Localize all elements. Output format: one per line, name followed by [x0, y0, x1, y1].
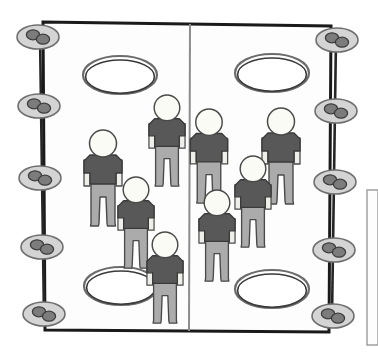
figure-right-1-shirt — [190, 134, 227, 162]
right-marker-3[interactable] — [314, 170, 356, 194]
left-marker-3[interactable] — [19, 166, 61, 190]
figure-left-2-shirt — [149, 119, 185, 147]
right-marker-2[interactable] — [315, 99, 357, 123]
diagram-canvas — [0, 0, 378, 357]
figure-right-2-head — [268, 108, 295, 135]
right-marker-4[interactable] — [313, 238, 355, 262]
right-marker-4-blob-right — [332, 247, 345, 257]
right-marker-5-blob-right — [331, 313, 344, 323]
left-marker-4-blob-right — [40, 244, 53, 254]
hoop-top-right[interactable] — [235, 54, 309, 92]
left-marker-1-blob-right — [36, 34, 49, 44]
figure-right-4-head — [204, 190, 230, 216]
hoop-top-left[interactable] — [83, 56, 157, 94]
figure-left-3-head — [123, 177, 149, 203]
right-marker-5[interactable] — [312, 304, 354, 328]
figure-right-3-head — [240, 156, 266, 182]
figure-left-4-head — [152, 232, 178, 258]
figure-left-2-head — [154, 95, 180, 121]
left-marker-3-blob-right — [38, 175, 51, 185]
figure-right-2-shirt — [262, 133, 300, 162]
figure-left-1-shirt — [84, 155, 122, 184]
left-marker-4[interactable] — [21, 235, 63, 259]
left-marker-5-blob-right — [42, 311, 55, 321]
left-marker-2[interactable] — [18, 94, 60, 118]
figure-right-3-shirt — [235, 180, 271, 208]
figure-left-3-shirt — [118, 201, 154, 229]
right-marker-2-blob-right — [334, 108, 347, 118]
figure-right-4-shirt — [199, 214, 235, 242]
figure-left-1-head — [90, 130, 117, 157]
right-marker-1-blob-right — [335, 37, 348, 47]
left-marker-1[interactable] — [17, 25, 59, 49]
figure-left-4-shirt — [147, 256, 183, 284]
right-marker-1[interactable] — [316, 28, 358, 52]
left-marker-5[interactable] — [23, 302, 65, 326]
figure-right-1-head — [196, 109, 222, 135]
right-edge-panel[interactable] — [367, 190, 378, 345]
hoop-bottom-right[interactable] — [235, 270, 309, 308]
center-divider-line — [189, 24, 190, 331]
right-marker-3-blob-right — [333, 179, 346, 189]
court-scene — [0, 0, 378, 357]
left-marker-2-blob-right — [37, 103, 50, 113]
